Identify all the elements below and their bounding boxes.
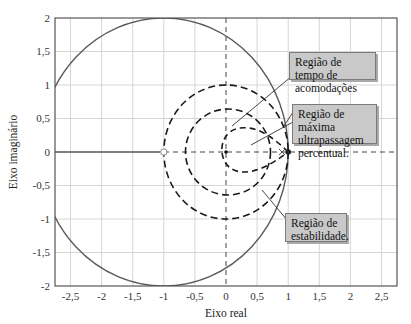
note-line: ultrapassagem bbox=[298, 134, 371, 147]
note-line: Região de tempo de bbox=[295, 56, 370, 82]
y-tick: 2 bbox=[45, 12, 51, 24]
note-line: Região de máxima bbox=[298, 108, 371, 134]
y-tick: 0,5 bbox=[36, 112, 50, 124]
y-tick: -0,5 bbox=[33, 179, 51, 191]
y-tick: 1,5 bbox=[36, 45, 50, 57]
x-tick: -1 bbox=[159, 290, 168, 302]
x-tick: 1,5 bbox=[312, 290, 326, 302]
x-tick-labels: -2,5 -2 -1,5 -1 -0,5 0 0,5 1 1,5 2 2,5 bbox=[62, 290, 389, 302]
x-tick: -2,5 bbox=[62, 290, 80, 302]
y-tick: 1 bbox=[45, 79, 51, 91]
unit-dot-marker bbox=[285, 149, 291, 155]
root-locus-chart: 2 1,5 1 0,5 0 -0,5 -1 -1,5 -2 -2,5 -2 -1… bbox=[0, 0, 411, 324]
note-line: percentual. bbox=[298, 147, 371, 160]
y-tick: -2 bbox=[41, 280, 50, 292]
x-tick: 2,5 bbox=[375, 290, 389, 302]
y-tick: -1 bbox=[41, 213, 50, 225]
note-line: estabilidade. bbox=[291, 230, 341, 243]
y-tick: 0 bbox=[45, 146, 51, 158]
y-tick: -1,5 bbox=[33, 246, 51, 258]
x-axis-label: Eixo real bbox=[205, 307, 247, 319]
x-tick: -0,5 bbox=[186, 290, 204, 302]
x-tick: 2 bbox=[348, 290, 354, 302]
overshoot-note: Região de máxima ultrapassagem percentua… bbox=[292, 104, 377, 144]
y-tick-labels: 2 1,5 1 0,5 0 -0,5 -1 -1,5 -2 bbox=[33, 12, 51, 292]
x-tick: 0 bbox=[223, 290, 229, 302]
settling-time-note: Região de tempo de acomodações bbox=[289, 52, 376, 80]
stability-note: Região de estabilidade. bbox=[285, 213, 347, 242]
x-tick: 0,5 bbox=[250, 290, 264, 302]
overshoot-loop bbox=[222, 128, 288, 172]
note-line: Região de bbox=[291, 217, 341, 230]
y-axis-label: Eixo imaginário bbox=[7, 115, 20, 190]
x-tick: -2 bbox=[97, 290, 106, 302]
open-circle-marker bbox=[161, 149, 167, 155]
origin-dot-marker bbox=[224, 150, 228, 154]
x-tick: 1 bbox=[285, 290, 291, 302]
x-tick: -1,5 bbox=[124, 290, 142, 302]
note-line: acomodações bbox=[295, 82, 370, 95]
